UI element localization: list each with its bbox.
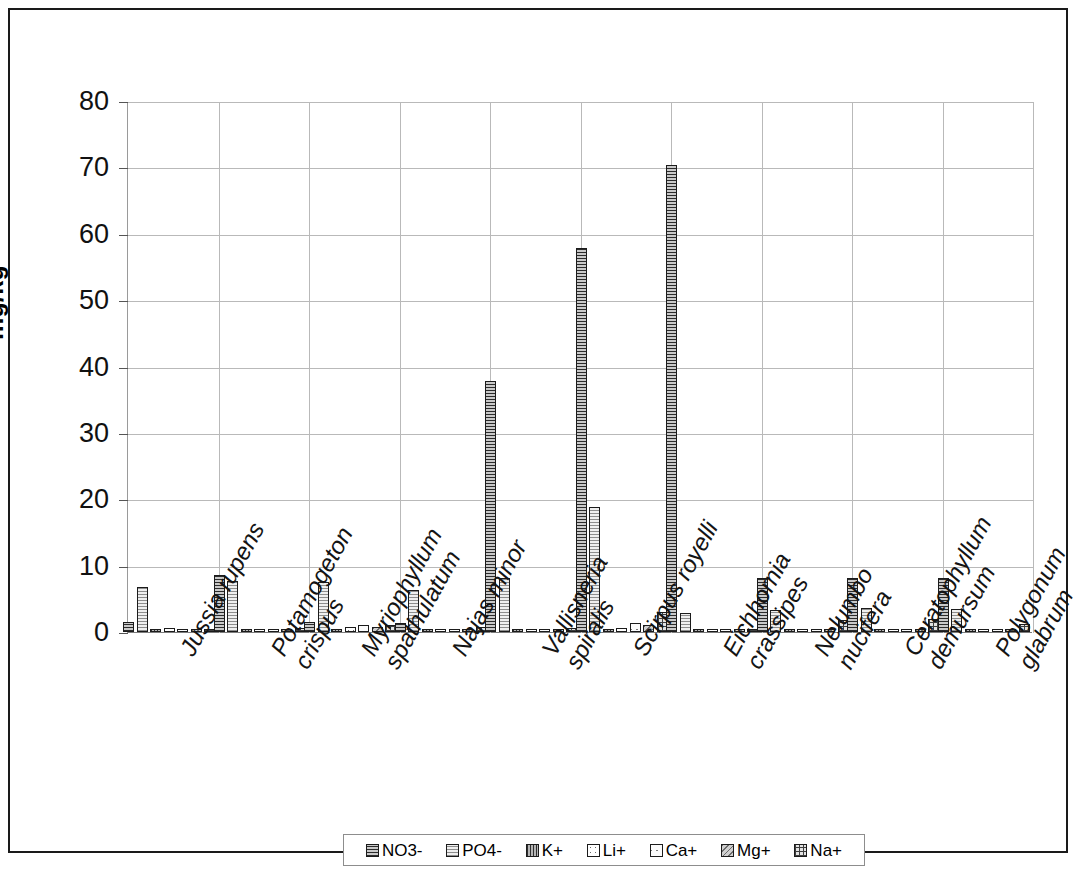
legend-label: PO4- bbox=[462, 842, 502, 859]
legend-item-k: K+ bbox=[526, 842, 563, 859]
legend-swatch-icon bbox=[794, 844, 807, 857]
y-axis-tick-label: 20 bbox=[55, 486, 109, 513]
bar-no3-jussia-rupens bbox=[123, 622, 134, 632]
legend-swatch-icon bbox=[366, 844, 379, 857]
plot-area bbox=[127, 102, 1032, 633]
legend-label: Ca+ bbox=[666, 842, 698, 859]
legend-label: Mg+ bbox=[737, 842, 771, 859]
legend-item-po4: PO4- bbox=[446, 842, 502, 859]
legend-label: Na+ bbox=[810, 842, 842, 859]
chart-figure: mg/kg 01020304050607080 Jussia rupensPot… bbox=[0, 0, 1083, 879]
bar-li-eichhornia-crassipes bbox=[707, 629, 718, 632]
legend-item-ca: Ca+ bbox=[650, 842, 698, 859]
y-axis-tick-label: 10 bbox=[55, 553, 109, 580]
gridline-vertical bbox=[1033, 102, 1034, 633]
legend-label: NO3- bbox=[382, 842, 423, 859]
legend-item-na: Na+ bbox=[794, 842, 842, 859]
chart-border: mg/kg 01020304050607080 Jussia rupensPot… bbox=[8, 8, 1068, 853]
bar-k-vallisneria-spiralis bbox=[512, 629, 523, 632]
legend-swatch-icon bbox=[446, 844, 459, 857]
bar-k-potamogeton-crispus bbox=[241, 629, 252, 632]
bar-li-jussia-rupens bbox=[164, 628, 175, 632]
legend-item-mg: Mg+ bbox=[721, 842, 771, 859]
y-axis-tick-label: 60 bbox=[55, 221, 109, 248]
legend-swatch-icon bbox=[650, 844, 663, 857]
bar-group bbox=[581, 101, 672, 632]
legend-swatch-icon bbox=[526, 844, 539, 857]
bar-li-myriophyllum-spathulatum bbox=[345, 627, 356, 632]
bar-li-nelumbo-nucifera bbox=[797, 629, 808, 632]
y-axis-tick-mark bbox=[119, 633, 128, 634]
legend-label: Li+ bbox=[603, 842, 626, 859]
y-axis-title: mg/kg bbox=[0, 265, 9, 340]
y-axis-tick-label: 30 bbox=[55, 420, 109, 447]
y-axis-tick-label: 50 bbox=[55, 287, 109, 314]
bar-li-scirpus-royelli bbox=[616, 628, 627, 632]
y-axis-tick-label: 80 bbox=[55, 88, 109, 115]
bar-li-potamogeton-crispus bbox=[254, 629, 265, 632]
bar-group bbox=[128, 101, 219, 632]
bar-group bbox=[852, 101, 943, 632]
chart-legend: NO3-PO4-K+Li+Ca+Mg+Na+ bbox=[343, 834, 865, 866]
legend-item-no3: NO3- bbox=[366, 842, 423, 859]
legend-swatch-icon bbox=[721, 844, 734, 857]
bar-po4-eichhornia-crassipes bbox=[680, 613, 691, 632]
legend-swatch-icon bbox=[587, 844, 600, 857]
bar-k-eichhornia-crassipes bbox=[693, 629, 704, 632]
legend-label: K+ bbox=[542, 842, 563, 859]
bar-po4-jussia-rupens bbox=[137, 587, 148, 632]
bar-li-ceratophyllum-demursum bbox=[888, 629, 899, 632]
legend-item-li: Li+ bbox=[587, 842, 626, 859]
bar-li-najas-minor bbox=[435, 629, 446, 632]
bar-li-polygonum-glabrum bbox=[978, 629, 989, 632]
y-axis-tick-label: 40 bbox=[55, 354, 109, 381]
bar-li-vallisneria-spiralis bbox=[526, 629, 537, 632]
bar-k-jussia-rupens bbox=[150, 629, 161, 632]
y-axis-tick-label: 70 bbox=[55, 154, 109, 181]
y-axis-tick-label: 0 bbox=[55, 619, 109, 646]
